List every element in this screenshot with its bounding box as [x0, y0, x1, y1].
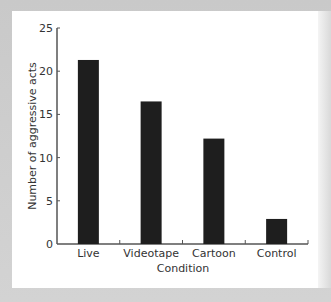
y-tick-label: 20: [39, 65, 53, 78]
bars: [78, 60, 287, 244]
bar-cartoon: [203, 139, 224, 244]
y-tick-label: 5: [46, 195, 53, 208]
x-tick-label: Videotape: [123, 247, 179, 260]
bar-videotape: [141, 101, 162, 244]
x-tick-label: Live: [77, 247, 100, 260]
y-tick-label: 0: [46, 238, 53, 251]
y-axis: 0510152025: [39, 22, 60, 251]
y-tick-label: 25: [39, 22, 53, 35]
bar-control: [266, 219, 287, 244]
x-tick-labels: LiveVideotapeCartoonControl: [77, 247, 296, 260]
bar-chart: 0510152025 LiveVideotapeCartoonControl C…: [0, 0, 331, 302]
y-tick-label: 15: [39, 108, 53, 121]
x-axis-title: Condition: [157, 262, 210, 275]
x-tick-label: Cartoon: [192, 247, 236, 260]
x-tick-label: Control: [257, 247, 297, 260]
bar-live: [78, 60, 99, 244]
y-tick-label: 10: [39, 152, 53, 165]
y-axis-title: Number of aggressive acts: [26, 62, 39, 210]
